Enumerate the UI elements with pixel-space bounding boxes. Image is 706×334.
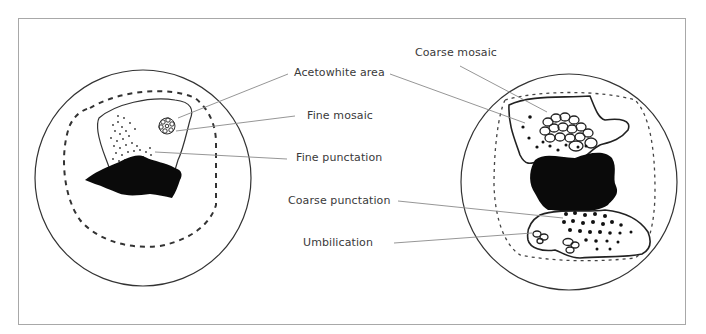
- leader-fine-mosaic: [176, 116, 295, 131]
- colposcopy-diagram: [0, 0, 706, 334]
- label-fine-punctation: Fine punctation: [296, 151, 382, 164]
- right-acetowhite-area: [509, 96, 629, 163]
- label-coarse-mosaic: Coarse mosaic: [415, 46, 497, 59]
- leader-coarse-mosaic: [460, 66, 547, 112]
- label-fine-mosaic: Fine mosaic: [307, 109, 373, 122]
- leader-coarse-punctation: [398, 201, 563, 218]
- label-acetowhite-area: Acetowhite area: [294, 66, 385, 79]
- right-lesion-dark: [530, 153, 617, 213]
- label-umbilication: Umbilication: [303, 236, 373, 249]
- leader-umbilication: [394, 233, 532, 243]
- left-cervix: [35, 70, 251, 286]
- leader-acetowhite-right: [390, 74, 525, 123]
- leader-acetowhite-left: [178, 74, 288, 118]
- right-cervix: [461, 74, 677, 290]
- label-coarse-punctation: Coarse punctation: [288, 194, 390, 207]
